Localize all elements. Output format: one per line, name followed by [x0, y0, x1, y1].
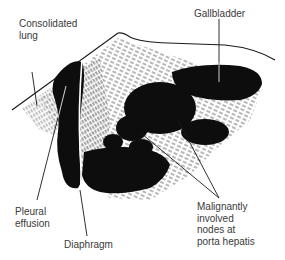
- node-small-2: [129, 139, 153, 155]
- label-diaphragm: Diaphragm: [64, 239, 113, 251]
- label-gallbladder: Gallbladder: [194, 8, 245, 20]
- node-small: [103, 134, 123, 150]
- label-pleural-effusion: Pleural effusion: [15, 206, 50, 229]
- leader-diaphragm: [80, 190, 87, 236]
- label-consolidated-lung: Consolidated lung: [19, 18, 77, 41]
- label-malignant-nodes: Malignantly involved nodes at porta hepa…: [197, 201, 255, 247]
- node-right: [181, 119, 229, 145]
